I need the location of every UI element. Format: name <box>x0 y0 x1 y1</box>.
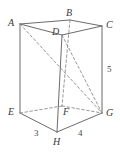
vertex-label-d: D <box>52 27 59 37</box>
edge-B-F <box>62 20 70 106</box>
edge-D-H <box>57 35 62 132</box>
prism-svg <box>0 0 120 155</box>
diagonal-D-G <box>62 35 102 113</box>
vertex-label-a: A <box>8 18 14 28</box>
measure-width: 4 <box>78 128 83 138</box>
vertex-label-g: G <box>106 108 113 118</box>
diagonal-A-G <box>20 24 102 113</box>
edge-D-C <box>62 26 102 35</box>
edge-A-B <box>20 20 70 24</box>
vertex-label-h: H <box>53 137 60 147</box>
geometry-figure: ABCDEFGH 345 <box>0 0 120 155</box>
measure-height: 5 <box>107 64 112 74</box>
edge-E-F <box>20 106 62 113</box>
vertex-label-f: F <box>63 107 69 117</box>
vertex-label-e: E <box>8 107 14 117</box>
vertex-label-b: B <box>66 8 72 18</box>
diagonal-group <box>20 24 102 113</box>
measure-depth: 3 <box>34 128 39 138</box>
edge-B-C <box>70 20 102 26</box>
vertex-label-c: C <box>106 20 113 30</box>
